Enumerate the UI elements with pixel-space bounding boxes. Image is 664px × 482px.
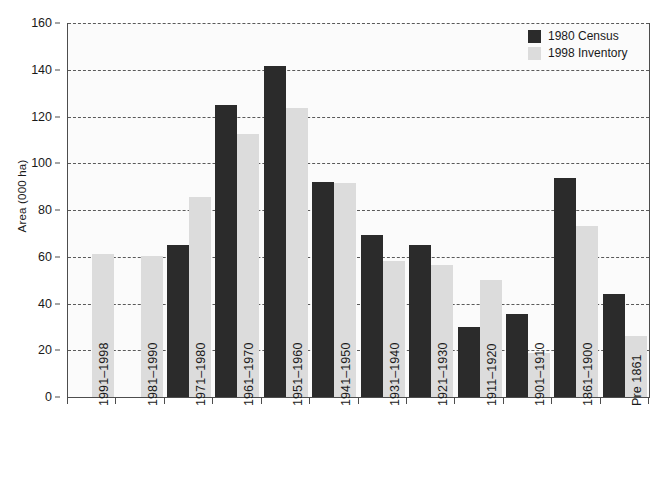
legend-entry: 1998 Inventory	[528, 46, 627, 60]
x-axis-tick-label: 1921–1930	[436, 316, 450, 406]
y-axis-tick-mark	[55, 163, 60, 164]
x-axis-tick-label: 1971–1980	[194, 316, 208, 406]
x-axis-tick-mark	[212, 397, 213, 404]
bar	[167, 245, 189, 397]
y-axis-tick-mark	[55, 397, 60, 398]
y-axis-tick-mark	[55, 350, 60, 351]
bar	[264, 66, 286, 397]
x-axis-tick-mark	[454, 397, 455, 404]
x-axis-tick-mark	[551, 397, 552, 404]
y-axis-tick-label: 20	[38, 343, 52, 357]
x-axis-tick-mark	[600, 397, 601, 404]
x-axis-tick-label: 1911–1920	[485, 316, 499, 406]
x-axis-tick-mark	[309, 397, 310, 404]
y-axis-tick-label: 140	[31, 63, 52, 77]
x-axis-tick-label: 1941–1950	[339, 316, 353, 406]
x-axis-tick-mark	[648, 397, 649, 404]
y-axis-tick-label: 160	[31, 16, 52, 30]
x-axis-tick-labels: 1991–19981981–19901971–19801961–19701951…	[67, 404, 648, 482]
x-axis-tick-label: 1991–1998	[97, 316, 111, 406]
x-axis-tick-label: 1981–1990	[146, 316, 160, 406]
legend-swatch-icon	[528, 47, 541, 60]
y-axis-tick-mark	[55, 116, 60, 117]
x-axis-tick-mark	[67, 397, 68, 404]
bar	[554, 178, 576, 397]
y-axis-tick-label: 60	[38, 250, 52, 264]
bar-chart: Area (000 ha) 020406080100120140160 1991…	[0, 0, 664, 482]
bar	[312, 182, 334, 397]
y-axis-tick-label: 100	[31, 156, 52, 170]
x-axis-tick-label: 1931–1940	[388, 316, 402, 406]
legend-label: 1998 Inventory	[548, 46, 627, 60]
x-axis-tick-mark	[503, 397, 504, 404]
y-axis-tick-label: 120	[31, 110, 52, 124]
x-axis-tick-label: 1951–1960	[291, 316, 305, 406]
legend-label: 1980 Census	[548, 29, 619, 43]
y-axis-tick-labels: 020406080100120140160	[0, 23, 60, 397]
bar	[409, 245, 431, 397]
x-axis-tick-mark	[115, 397, 116, 404]
y-axis-tick-label: 0	[45, 390, 52, 404]
x-axis-tick-mark	[358, 397, 359, 404]
y-axis-tick-mark	[55, 23, 60, 24]
bar	[458, 327, 480, 397]
x-axis-tick-label: 1961–1970	[242, 316, 256, 406]
bar	[506, 314, 528, 397]
legend-swatch-icon	[528, 30, 541, 43]
bar	[215, 105, 237, 397]
x-axis-tick-label: 1861–1900	[581, 316, 595, 406]
y-axis-tick-label: 40	[38, 297, 52, 311]
y-axis-tick-mark	[55, 256, 60, 257]
y-axis-tick-mark	[55, 303, 60, 304]
legend-entry: 1980 Census	[528, 29, 627, 43]
y-axis-tick-label: 80	[38, 203, 52, 217]
x-axis-tick-label: Pre 1861	[630, 316, 644, 406]
x-axis-tick-mark	[164, 397, 165, 404]
y-axis-tick-mark	[55, 69, 60, 70]
y-axis-tick-mark	[55, 210, 60, 211]
x-axis-tick-label: 1901–1910	[533, 316, 547, 406]
chart-legend: 1980 Census1998 Inventory	[528, 29, 627, 60]
x-axis-tick-mark	[261, 397, 262, 404]
bar	[361, 235, 383, 397]
x-axis-tick-mark	[406, 397, 407, 404]
bar	[603, 294, 625, 397]
